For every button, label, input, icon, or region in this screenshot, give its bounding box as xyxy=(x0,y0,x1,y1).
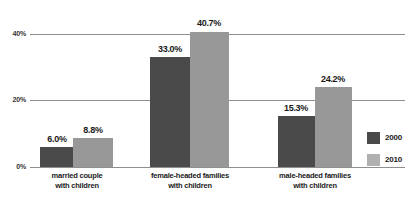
bar-value-2010-male-headed: 24.2% xyxy=(312,74,354,84)
category-label-line2: with children xyxy=(16,181,138,191)
category-label-male-headed: male-headed families with children xyxy=(254,171,376,191)
axis-baseline-0 xyxy=(30,167,405,168)
ytick-label-0: 0% xyxy=(2,163,26,171)
ytick-label-40: 40% xyxy=(2,30,26,38)
legend-label-2010: 2010 xyxy=(385,155,402,164)
bar-2000-married-couple xyxy=(40,147,73,167)
bar-2010-male-headed xyxy=(315,87,352,167)
bar-value-2000-female-headed: 33.0% xyxy=(149,44,191,54)
category-label-line2: with children xyxy=(254,181,376,191)
category-label-female-headed: female-headed families with children xyxy=(129,171,251,191)
legend-swatch-2010-icon xyxy=(367,154,380,166)
bar-value-2010-female-headed: 40.7% xyxy=(188,18,230,28)
bar-2000-male-headed xyxy=(278,116,315,167)
bar-value-2000-male-headed: 15.3% xyxy=(275,103,317,113)
category-label-line1: male-headed families xyxy=(279,171,351,180)
legend-swatch-2000-icon xyxy=(367,132,380,144)
bar-chart: 40% 20% 0% 6.0% 8.8% married couple with… xyxy=(0,0,416,208)
plot-area: 40% 20% 0% 6.0% 8.8% married couple with… xyxy=(0,0,416,208)
category-label-line1: female-headed families xyxy=(151,171,229,180)
legend-label-2000: 2000 xyxy=(385,133,402,142)
category-label-line1: married couple xyxy=(52,171,103,180)
category-label-married-couple: married couple with children xyxy=(16,171,138,191)
bar-2010-female-headed xyxy=(190,32,229,167)
bar-2010-married-couple xyxy=(73,138,113,167)
bar-value-2010-married-couple: 8.8% xyxy=(72,125,114,135)
bar-2000-female-headed xyxy=(150,57,190,167)
bar-value-2000-married-couple: 6.0% xyxy=(36,134,78,144)
category-label-line2: with children xyxy=(129,181,251,191)
ytick-label-20: 20% xyxy=(2,96,26,104)
